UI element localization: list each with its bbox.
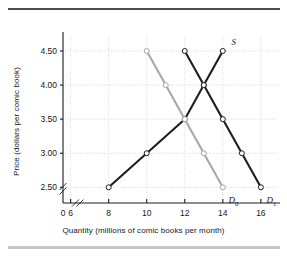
data-point-marker [163, 83, 168, 88]
data-point-marker [258, 185, 263, 190]
data-point-marker [182, 48, 187, 53]
x-tick-label-16: 16 [250, 208, 272, 218]
y-tick-label-4.50: 4.50 [27, 46, 57, 56]
x-tick-label-8: 8 [98, 208, 120, 218]
y-tick-label-3.00: 3.00 [27, 148, 57, 158]
curve-label-D0: D0 [229, 195, 239, 207]
x-tick-label-6: 6 [60, 208, 82, 218]
data-point-marker [201, 83, 206, 88]
gridlines [63, 36, 278, 203]
x-axis-title: Quantity (millions of comic books per mo… [0, 226, 287, 235]
data-point-marker [220, 117, 225, 122]
curve-label-D1: D1 [267, 195, 277, 207]
data-point-marker [220, 48, 225, 53]
data-point-marker [220, 185, 225, 190]
data-point-marker [182, 117, 187, 122]
data-point-marker [239, 151, 244, 156]
y-axis-title: Price (dollars per comic book) [12, 42, 21, 202]
data-point-marker [144, 151, 149, 156]
x-tick-label-14: 14 [212, 208, 234, 218]
x-tick-label-12: 12 [174, 208, 196, 218]
figure-container: 2.503.003.504.004.5006810121416 SD0D1 Qu… [0, 0, 287, 256]
data-point-marker [106, 185, 111, 190]
x-tick-label-10: 10 [136, 208, 158, 218]
data-point-marker [201, 151, 206, 156]
y-tick-label-3.50: 3.50 [27, 114, 57, 124]
y-tick-label-2.50: 2.50 [27, 182, 57, 192]
curve-label-S: S [231, 37, 236, 47]
data-point-marker [144, 48, 149, 53]
y-tick-label-4.00: 4.00 [27, 80, 57, 90]
